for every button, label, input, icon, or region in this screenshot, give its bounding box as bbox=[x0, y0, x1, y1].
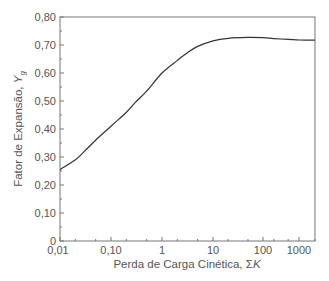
x-tick-label: 10 bbox=[207, 244, 219, 256]
y-tick-label: 0,50 bbox=[35, 95, 56, 107]
x-tick-label: 1000 bbox=[287, 244, 311, 256]
x-tick-label: 1 bbox=[159, 244, 165, 256]
x-tick-label: 0,01 bbox=[47, 244, 68, 256]
y-axis-title: Fator de Expansão, Yg bbox=[12, 71, 27, 187]
x-tick-label: 100 bbox=[254, 244, 272, 256]
y-tick-label: 0,20 bbox=[35, 179, 56, 191]
x-axis: 0,010,101101001000 bbox=[47, 237, 315, 256]
y-tick-label: 0,40 bbox=[35, 123, 56, 135]
y-tick-label: 0,30 bbox=[35, 151, 56, 163]
chart: 00,100,200,300,400,500,600,700,80 0,010,… bbox=[0, 0, 329, 281]
y-tick-label: 0,60 bbox=[35, 67, 56, 79]
data-line bbox=[60, 37, 315, 169]
x-tick-label: 0,10 bbox=[100, 244, 121, 256]
y-tick-label: 0,10 bbox=[35, 207, 56, 219]
y-tick-label: 0,80 bbox=[35, 11, 56, 23]
y-tick-label: 0,70 bbox=[35, 39, 56, 51]
x-axis-title: Perda de Carga Cinética, ΣK bbox=[113, 258, 261, 270]
plot-frame bbox=[60, 17, 315, 241]
